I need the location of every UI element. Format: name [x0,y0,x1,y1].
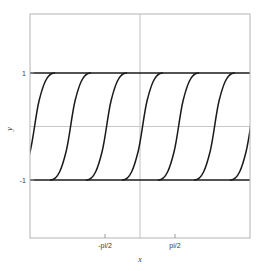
ytick-label-one: 1 [22,70,26,77]
x-axis-title: x [137,255,142,264]
y-axis-title: y [5,127,14,132]
clip-mask-top [0,0,273,14]
xtick-label-pi-over-2: pi/2 [169,242,180,250]
chart-figure: -pi/2 pi/2 1 -1 x y [0,0,273,271]
ytick-label-neg-one: -1 [20,177,26,184]
xtick-label-neg-pi-over-2: -pi/2 [98,242,112,250]
clip-mask-right [250,0,273,271]
plot-canvas: -pi/2 pi/2 1 -1 x y [0,0,273,271]
clip-mask-bottom [0,238,273,271]
clip-mask-left [0,0,30,271]
